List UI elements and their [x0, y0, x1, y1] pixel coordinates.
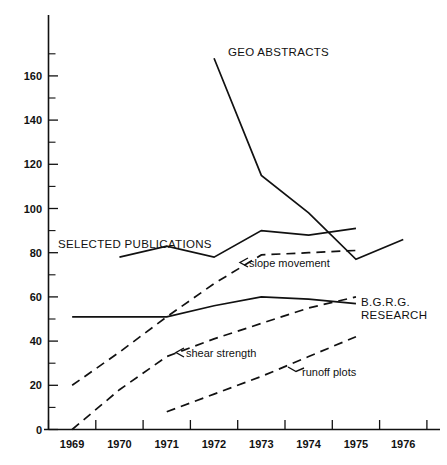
y-tick-label: 60: [30, 291, 42, 303]
y-axis-minor-ticks: [49, 54, 56, 408]
line-chart-canvas: 0 20 40 60 80 100 120 140 160 1969 1970: [0, 0, 447, 465]
annotation-selected-publications: SELECTED PUBLICATIONS: [58, 238, 212, 250]
y-tick-label: 160: [24, 70, 42, 82]
x-axis-tick-labels: 1969 1970 1971 1972 1973 1974 1975 1976: [60, 438, 416, 450]
y-tick-label: 140: [24, 114, 42, 126]
y-axis-major-ticks: [49, 76, 59, 430]
annotation-geo-abstracts: GEO ABSTRACTS: [228, 46, 329, 58]
x-tick-label: 1969: [60, 438, 84, 450]
x-axis-ticks: [49, 420, 427, 430]
x-tick-label: 1971: [154, 438, 178, 450]
leader-shear-strength: [176, 348, 184, 357]
annotation-runoff-plots: runoff plots: [302, 366, 357, 378]
y-tick-label: 120: [24, 158, 42, 170]
y-axis-tick-labels: 0 20 40 60 80 100 120 140 160: [24, 70, 42, 436]
x-tick-label: 1974: [296, 438, 321, 450]
annotation-shear-strength: shear strength: [186, 347, 256, 359]
x-tick-label: 1970: [107, 438, 131, 450]
y-tick-label: 0: [36, 424, 42, 436]
y-tick-label: 80: [30, 247, 42, 259]
annotation-bgrg-research-line1: B.G.R.G.: [361, 296, 410, 308]
x-tick-label: 1973: [249, 438, 273, 450]
x-tick-label: 1972: [202, 438, 226, 450]
annotation-slope-movement: slope movement: [249, 257, 330, 269]
x-tick-label: 1976: [391, 438, 415, 450]
y-tick-label: 100: [24, 203, 42, 215]
chart-figure: 0 20 40 60 80 100 120 140 160 1969 1970: [0, 0, 447, 465]
leader-slope-movement: [240, 258, 248, 267]
annotation-layer: GEO ABSTRACTS SELECTED PUBLICATIONS B.G.…: [58, 46, 427, 378]
series-geo-abstracts: [214, 58, 403, 259]
y-tick-label: 40: [30, 335, 42, 347]
annotation-bgrg-research-line2: RESEARCH: [361, 309, 427, 321]
y-tick-label: 20: [30, 379, 42, 391]
x-tick-label: 1975: [344, 438, 368, 450]
